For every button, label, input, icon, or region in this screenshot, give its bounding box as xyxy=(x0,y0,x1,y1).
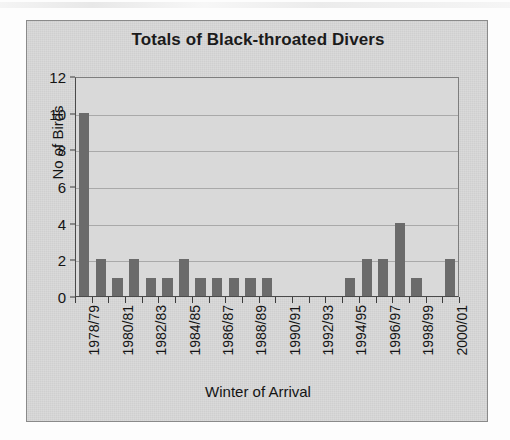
x-tick-label: 1994/95 xyxy=(355,305,368,381)
y-axis: 024681012 xyxy=(27,77,75,297)
x-tick-label: 1996/97 xyxy=(389,305,402,381)
x-tick-mark xyxy=(426,297,427,303)
x-tick-label: 1992/93 xyxy=(322,305,335,381)
y-tick-label: 6 xyxy=(58,179,66,196)
x-axis-labels: 1978/791980/811982/831984/851986/871988/… xyxy=(75,305,459,381)
x-tick-mark xyxy=(175,297,176,303)
x-tick-mark xyxy=(309,297,310,303)
bar xyxy=(229,278,239,296)
y-tick-mark xyxy=(70,187,75,188)
bar-slot xyxy=(342,78,359,296)
bar-slot xyxy=(408,78,425,296)
bar-slot xyxy=(93,78,110,296)
bar-slot xyxy=(109,78,126,296)
scan-artifact-streak xyxy=(0,2,510,8)
bar-slot xyxy=(142,78,159,296)
x-tick-mark xyxy=(209,297,210,303)
y-tick-label: 8 xyxy=(58,142,66,159)
bar-series xyxy=(76,78,458,296)
x-tick-mark xyxy=(242,297,243,303)
x-tick-label: 1980/81 xyxy=(122,305,135,381)
bar-slot xyxy=(242,78,259,296)
x-tick-mark xyxy=(325,297,326,303)
bar xyxy=(212,278,222,296)
x-tick-label: 1990/91 xyxy=(289,305,302,381)
x-tick-mark xyxy=(192,297,193,303)
bar-slot xyxy=(441,78,458,296)
x-tick-mark xyxy=(125,297,126,303)
bar-slot xyxy=(225,78,242,296)
x-tick-mark xyxy=(359,297,360,303)
bar xyxy=(245,278,255,296)
y-tick-label: 4 xyxy=(58,215,66,232)
bar-slot xyxy=(209,78,226,296)
bar-slot xyxy=(192,78,209,296)
bar xyxy=(362,259,372,296)
x-tick-mark xyxy=(108,297,109,303)
y-tick-mark xyxy=(70,150,75,151)
bar xyxy=(195,278,205,296)
bar xyxy=(345,278,355,296)
bar-slot xyxy=(392,78,409,296)
bar xyxy=(378,259,388,296)
bar xyxy=(146,278,156,296)
bar-slot xyxy=(275,78,292,296)
y-tick-label: 10 xyxy=(49,105,66,122)
x-tick-mark xyxy=(158,297,159,303)
x-tick-label: 1988/89 xyxy=(255,305,268,381)
x-tick-mark xyxy=(459,297,460,303)
x-tick-mark xyxy=(259,297,260,303)
x-tick-label: 1998/99 xyxy=(422,305,435,381)
x-tick-mark xyxy=(142,297,143,303)
y-tick-label: 2 xyxy=(58,252,66,269)
bar xyxy=(112,278,122,296)
bar-slot xyxy=(358,78,375,296)
bar xyxy=(162,278,172,296)
bar-slot xyxy=(159,78,176,296)
chart-container: Totals of Black-throated Divers No of Bi… xyxy=(26,20,488,422)
bar-slot xyxy=(325,78,342,296)
bar-slot xyxy=(425,78,442,296)
plot-area xyxy=(75,77,459,297)
bar-slot xyxy=(375,78,392,296)
x-tick-label: 1984/85 xyxy=(189,305,202,381)
x-tick-label: 2000/01 xyxy=(456,305,469,381)
y-tick-label: 12 xyxy=(49,69,66,86)
x-axis-ticks xyxy=(75,297,459,303)
bar xyxy=(411,278,421,296)
bar xyxy=(129,259,139,296)
x-tick-label: 1986/87 xyxy=(222,305,235,381)
bar-slot xyxy=(176,78,193,296)
x-tick-mark xyxy=(376,297,377,303)
x-tick-mark xyxy=(75,297,76,303)
bar-slot xyxy=(292,78,309,296)
x-tick-mark xyxy=(275,297,276,303)
bar-slot xyxy=(76,78,93,296)
y-tick-mark xyxy=(70,223,75,224)
x-tick-mark xyxy=(292,297,293,303)
y-tick-mark xyxy=(70,113,75,114)
bar-slot xyxy=(126,78,143,296)
x-tick-label: 1978/79 xyxy=(88,305,101,381)
bar-slot xyxy=(259,78,276,296)
bar xyxy=(179,259,189,296)
bar-slot xyxy=(309,78,326,296)
scanned-page: Totals of Black-throated Divers No of Bi… xyxy=(0,0,510,440)
bar xyxy=(262,278,272,296)
y-tick-label: 0 xyxy=(58,289,66,306)
x-axis-title: Winter of Arrival xyxy=(27,383,489,400)
x-tick-mark xyxy=(225,297,226,303)
chart-title: Totals of Black-throated Divers xyxy=(27,30,489,50)
bar xyxy=(445,259,455,296)
x-tick-mark xyxy=(409,297,410,303)
bar xyxy=(96,259,106,296)
bar xyxy=(79,113,89,296)
y-tick-mark xyxy=(70,260,75,261)
bar xyxy=(395,223,405,296)
x-tick-mark xyxy=(392,297,393,303)
x-tick-label: 1982/83 xyxy=(155,305,168,381)
y-tick-mark xyxy=(70,77,75,78)
x-tick-mark xyxy=(342,297,343,303)
x-tick-mark xyxy=(442,297,443,303)
x-tick-mark xyxy=(92,297,93,303)
